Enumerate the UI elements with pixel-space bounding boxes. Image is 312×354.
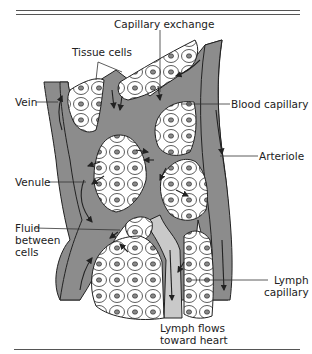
label-capillary-exchange: Capillary exchange <box>114 18 214 30</box>
label-blood-capillary: Blood capillary <box>231 98 309 110</box>
label-lymph-flows: Lymph flows toward heart <box>160 322 228 346</box>
label-arteriole: Arteriole <box>259 150 304 162</box>
label-vein: Vein <box>15 96 37 108</box>
tissue-cluster-bottom-right <box>184 231 213 318</box>
label-fluid-between-cells: Fluid between cells <box>15 222 60 258</box>
label-tissue-cells: Tissue cells <box>72 46 132 58</box>
tissue-cluster-middle-right <box>160 159 207 220</box>
bottom-rule <box>14 349 300 350</box>
label-lymph-capillary: Lymph capillary <box>264 274 309 298</box>
label-venule: Venule <box>15 176 51 188</box>
